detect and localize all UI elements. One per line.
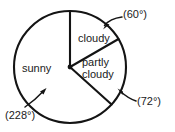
angle-label-cloudy: (60°) bbox=[123, 8, 147, 20]
sector-label-sunny: sunny bbox=[22, 62, 52, 74]
leader-line-sunny-angle bbox=[25, 91, 44, 107]
pie-chart-figure: cloudy partly cloudy sunny (60°) (72°) (… bbox=[0, 0, 175, 132]
sector-label-cloudy: cloudy bbox=[78, 32, 110, 44]
pie-center-point bbox=[68, 65, 73, 70]
sector-label-partly-cloudy-line2: cloudy bbox=[82, 68, 114, 80]
angle-label-partly-cloudy: (72°) bbox=[137, 95, 161, 107]
pie-chart-svg: cloudy partly cloudy sunny (60°) (72°) (… bbox=[0, 0, 175, 132]
sector-label-partly-cloudy-line1: partly bbox=[82, 56, 109, 68]
angle-label-sunny: (228°) bbox=[5, 109, 35, 121]
leader-line-partly-cloudy-angle bbox=[121, 92, 137, 102]
